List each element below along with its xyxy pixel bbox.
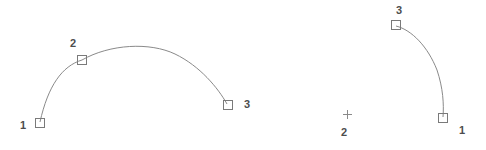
left-arc-curve[interactable]	[40, 46, 227, 122]
crosshair-cursor-icon[interactable]	[343, 110, 352, 119]
left-arc-point-2-label: 2	[70, 38, 76, 49]
arc-geometry-layer	[0, 0, 486, 150]
right-arc-point-3-label: 3	[396, 5, 402, 16]
left-arc-point-3-label: 3	[244, 99, 250, 110]
right-arc-point-1-label: 1	[459, 125, 465, 136]
crosshair-cursor-label: 2	[341, 127, 347, 138]
right-arc-point-3-marker[interactable]	[392, 21, 401, 30]
drawing-canvas[interactable]: 1 2 3 3 1 2	[0, 0, 486, 150]
left-arc-point-3-marker[interactable]	[224, 101, 233, 110]
right-arc-curve[interactable]	[396, 26, 443, 117]
left-arc-point-1-label: 1	[20, 120, 26, 131]
